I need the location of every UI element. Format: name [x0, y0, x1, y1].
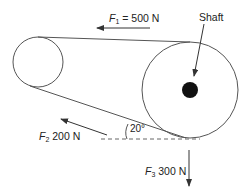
belt-top [38, 37, 190, 42]
shaft-pointer [194, 24, 204, 76]
belt-drive-diagram [0, 0, 250, 196]
f1-value: = 500 N [119, 12, 159, 24]
f2-label: F2 200 N [39, 131, 80, 143]
f1-label: F1 = 500 N [109, 13, 159, 25]
small-pulley [13, 37, 63, 87]
shaft [182, 82, 198, 98]
f3-value: 300 N [155, 165, 186, 177]
f2-value: 200 N [49, 130, 80, 142]
angle-label: 20° [130, 124, 145, 134]
angle-arc [126, 124, 128, 139]
shaft-label: Shaft [199, 12, 224, 23]
f3-label: F3 300 N [145, 166, 186, 178]
